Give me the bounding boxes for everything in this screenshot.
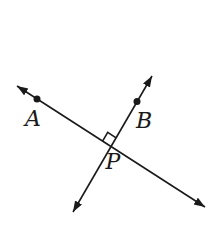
diagram-canvas: ABP	[0, 0, 220, 225]
diagram-stage: ABP	[0, 0, 220, 225]
point-B-dot	[134, 98, 141, 105]
line-through-B-and-P	[73, 76, 152, 212]
label-B: B	[135, 108, 152, 133]
point-A-dot	[34, 96, 41, 103]
label-P: P	[105, 149, 122, 174]
label-A: A	[23, 106, 41, 131]
